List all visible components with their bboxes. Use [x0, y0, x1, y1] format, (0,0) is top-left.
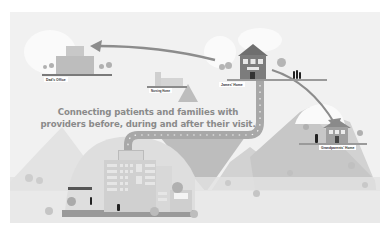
- tree-icon: [67, 197, 76, 206]
- tree-icon: [225, 180, 231, 186]
- james-home: James' Home: [205, 42, 315, 87]
- tree-icon: [287, 170, 293, 176]
- nursing-home-label: Nursing Home: [149, 88, 172, 93]
- family-icon: [293, 71, 295, 79]
- visitor-icon: [90, 197, 92, 205]
- hospital-main-building: [104, 160, 156, 212]
- james-ground: [227, 79, 327, 81]
- house-icon: [238, 42, 268, 82]
- tree-icon: [45, 207, 53, 215]
- dads-office: Dad's Office: [38, 34, 113, 79]
- grandparents-home: Grandparents' Home: [295, 112, 380, 154]
- tree-icon: [25, 174, 33, 182]
- tree-icon: [36, 177, 43, 184]
- tree-icon: [253, 190, 260, 197]
- illustration-canvas: Dad's Office Nursing Home James' Home: [10, 12, 380, 223]
- tagline: Connecting patients and families with pr…: [38, 106, 258, 130]
- dads-office-label: Dad's Office: [44, 77, 68, 82]
- tree-icon: [150, 207, 159, 216]
- tree-icon: [190, 210, 198, 218]
- office-ground: [42, 74, 112, 76]
- grandparents-icon: [315, 134, 318, 143]
- office-block: [56, 56, 94, 74]
- nursing-home: Nursing Home: [145, 70, 190, 98]
- patient-icon: [117, 204, 120, 211]
- tree-icon: [362, 182, 368, 188]
- tree-icon: [348, 162, 355, 169]
- james-home-label: James' Home: [219, 82, 245, 87]
- hospital-sign: [68, 187, 92, 190]
- tagline-line-2: providers before, during and after their…: [38, 118, 258, 130]
- house-icon: [323, 118, 351, 144]
- tree-icon: [172, 182, 183, 193]
- grandparents-home-label: Grandparents' Home: [319, 145, 356, 150]
- tagline-line-1: Connecting patients and families with: [38, 106, 258, 118]
